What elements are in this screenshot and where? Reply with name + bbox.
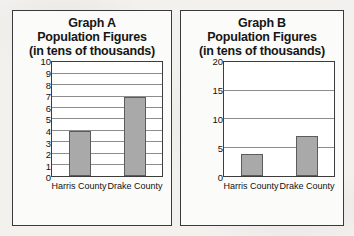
- graph-b-x-axis: Harris CountyDrake County: [223, 177, 335, 191]
- graph-a-ytick-label: 0: [31, 172, 51, 183]
- graph-a-chart: 012345678910 Harris CountyDrake County: [29, 61, 167, 191]
- graph-b-bar-harris-county: [241, 154, 263, 177]
- graph-a-ytick-label: 4: [31, 125, 51, 136]
- graph-a-ytick-label: 9: [31, 67, 51, 78]
- graph-b-bar-drake-county: [296, 136, 318, 176]
- graph-a-panel: Graph A Population Figures (in tens of t…: [12, 10, 172, 226]
- graph-b-plot-area: [223, 61, 335, 177]
- graph-a-ytick-label: 2: [31, 149, 51, 160]
- graph-b-ytick-label: 0: [201, 172, 223, 183]
- graph-b-gridline: [224, 147, 334, 148]
- graph-a-title-line-2: Population Figures: [13, 30, 171, 44]
- graph-b-title-line-1: Graph B: [181, 16, 343, 30]
- graph-b-title-line-2: Population Figures: [181, 30, 343, 44]
- graph-b-title: Graph B Population Figures (in tens of t…: [181, 11, 343, 58]
- graph-b-y-axis: 05101520: [199, 61, 223, 177]
- graph-a-ytick-label: 10: [31, 56, 51, 67]
- graph-b-gridline: [224, 118, 334, 119]
- graph-b-chart: 05101520 Harris CountyDrake County: [199, 61, 339, 191]
- graph-b-ytick-label: 20: [201, 56, 223, 67]
- graph-a-plot-area: [51, 61, 163, 177]
- graph-a-gridline: [52, 73, 162, 74]
- graph-a-ytick-label: 1: [31, 160, 51, 171]
- graph-a-gridline: [52, 84, 162, 85]
- graph-a-ytick-label: 8: [31, 79, 51, 90]
- graph-a-bar-drake-county: [124, 97, 146, 177]
- graph-b-ytick-label: 5: [201, 143, 223, 154]
- graph-b-ytick-label: 15: [201, 85, 223, 96]
- graph-a-xtick-label: Drake County: [107, 181, 162, 191]
- graph-a-title: Graph A Population Figures (in tens of t…: [13, 11, 171, 58]
- graph-a-bar-harris-county: [69, 131, 91, 177]
- graph-a-title-line-1: Graph A: [13, 16, 171, 30]
- graph-a-y-axis: 012345678910: [29, 61, 51, 177]
- graph-b-xtick-label: Drake County: [279, 181, 334, 191]
- graph-a-gridline: [52, 107, 162, 108]
- graph-a-ytick-label: 6: [31, 102, 51, 113]
- graph-b-panel: Graph B Population Figures (in tens of t…: [180, 10, 344, 226]
- graph-a-x-axis: Harris CountyDrake County: [51, 177, 163, 191]
- graph-a-ytick-label: 5: [31, 114, 51, 125]
- graph-a-gridline: [52, 118, 162, 119]
- graph-b-gridline: [224, 90, 334, 91]
- graph-a-gridline: [52, 96, 162, 97]
- graph-b-ytick-label: 10: [201, 114, 223, 125]
- graph-b-xtick-label: Harris County: [223, 181, 278, 191]
- graph-a-ytick-label: 7: [31, 91, 51, 102]
- graph-a-xtick-label: Harris County: [51, 181, 106, 191]
- graph-a-ytick-label: 3: [31, 137, 51, 148]
